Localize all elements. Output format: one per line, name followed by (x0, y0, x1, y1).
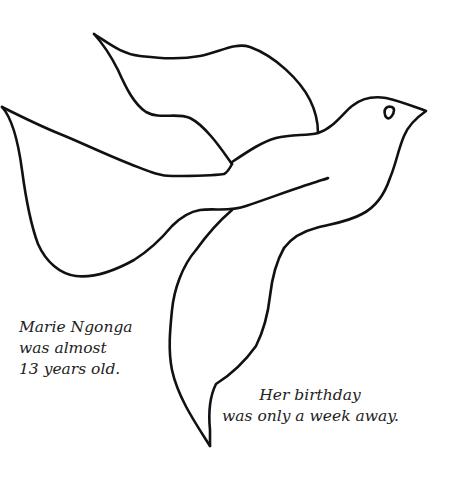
story-page: Marie Ngonga was almost 13 years old. He… (0, 0, 460, 484)
caption-age: Marie Ngonga was almost 13 years old. (19, 317, 133, 380)
dove-eye (385, 107, 394, 119)
caption-age-line-1: Marie Ngonga (19, 317, 133, 338)
dove-back-wing (94, 34, 318, 133)
caption-birthday: Her birthday was only a week away. (222, 385, 398, 427)
dove-front-wing (2, 107, 232, 176)
dove-front-wing-underside (2, 107, 328, 276)
caption-age-line-2: was almost (19, 338, 133, 359)
caption-birthday-line-2: was only a week away. (222, 406, 398, 427)
caption-age-line-3: 13 years old. (19, 359, 133, 380)
caption-birthday-line-1: Her birthday (222, 385, 398, 406)
dove-head-back (232, 97, 426, 248)
